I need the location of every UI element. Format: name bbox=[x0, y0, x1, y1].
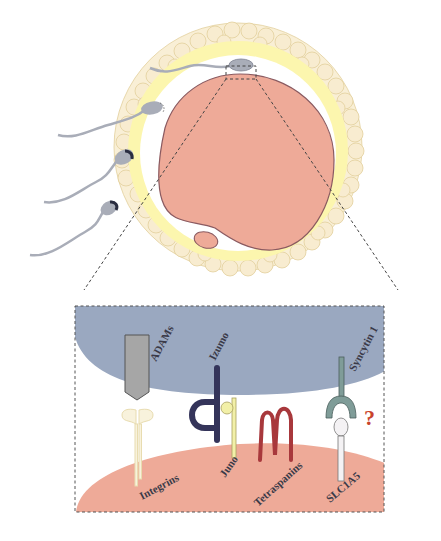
inset-panel: ? ADAMs Izumo Syncytin 1 Integrins Juno … bbox=[60, 306, 400, 512]
adams-protein bbox=[125, 335, 149, 400]
fertilization-diagram: ? ADAMs Izumo Syncytin 1 Integrins Juno … bbox=[0, 0, 441, 541]
unknown-marker: ? bbox=[364, 405, 375, 430]
sperm-4 bbox=[30, 198, 120, 255]
